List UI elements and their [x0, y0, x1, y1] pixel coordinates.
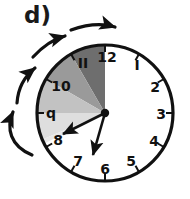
numeral-12: 12	[97, 49, 116, 65]
numeral-9: q	[46, 105, 56, 121]
numeral-1: I	[134, 57, 139, 73]
numeral-4: 4	[149, 133, 159, 149]
rotation-arrow-3	[33, 36, 65, 57]
numeral-10: 10	[51, 78, 71, 94]
numeral-3: 3	[156, 106, 166, 122]
numeral-6: 6	[100, 161, 110, 177]
clock-hub	[101, 109, 109, 117]
numeral-8: 8	[53, 132, 63, 148]
figure-canvas: d)	[0, 0, 190, 199]
numeral-5: 5	[126, 153, 136, 169]
rotation-arrow-1	[10, 112, 32, 155]
numeral-11: II	[78, 55, 88, 71]
rotation-arrow-4	[71, 25, 115, 30]
numeral-7: 7	[73, 153, 83, 169]
clock-diagram: 12 I 2 3 4 5 6 7 8 q 10 II	[0, 0, 190, 199]
rotation-arrow-2	[17, 68, 35, 103]
numeral-2: 2	[150, 79, 160, 95]
